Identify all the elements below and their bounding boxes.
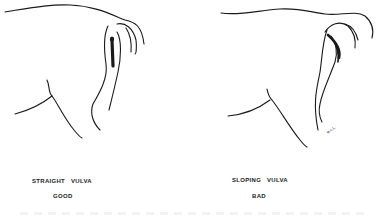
right-caption-title: SLOPING VULVA <box>232 177 288 183</box>
right-cow-outline <box>221 9 373 147</box>
left-vulva <box>110 36 114 66</box>
left-caption-title: STRAIGHT VULVA <box>32 178 92 184</box>
left-caption-verdict: GOOD <box>53 193 73 199</box>
right-caption-verdict: BAD <box>252 193 266 199</box>
illustration-canvas <box>0 0 382 219</box>
left-cow-outline <box>5 5 144 138</box>
cut-off-text-line <box>20 212 370 215</box>
right-vulva <box>328 35 339 62</box>
